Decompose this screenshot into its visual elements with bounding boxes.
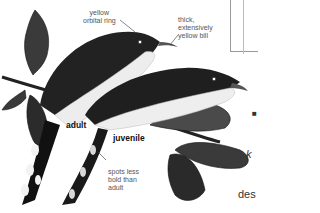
label-adult: adult (66, 120, 86, 130)
range-map-frame (230, 0, 258, 52)
bullet: ■ (238, 107, 258, 121)
side-text-fragment: ■ k des ho ( der clea (238, 80, 258, 213)
annotation-orbital-ring: yellow orbital ring (83, 9, 116, 25)
label-juvenile: juvenile (113, 133, 145, 143)
column-divider (243, 0, 244, 54)
annotation-spots: spots less bold than adult (108, 168, 139, 192)
annotation-bill: thick, extensively yellow bill (178, 16, 213, 40)
